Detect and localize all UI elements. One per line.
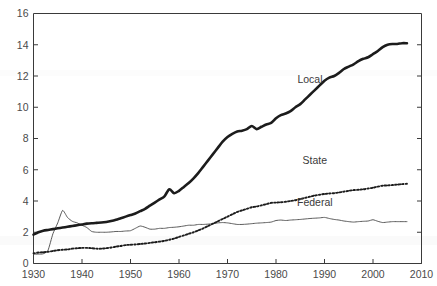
x-tick-label: 1980 — [264, 268, 288, 280]
y-tick-label: 8 — [23, 132, 29, 144]
y-tick-label: 10 — [17, 101, 29, 113]
annotation-label-local: Local — [297, 73, 322, 85]
x-tick-label: 1950 — [119, 268, 143, 280]
series-line-local — [34, 43, 407, 234]
x-tick-label: 2010 — [410, 268, 434, 280]
y-tick-label: 16 — [17, 7, 29, 19]
y-axis-ticks: 0246810121416 — [17, 7, 422, 269]
x-axis-ticks: 193019401950196019701980199020002010 — [22, 259, 434, 280]
y-tick-label: 4 — [23, 195, 29, 207]
chart-container: 0246810121416 19301940195019601970198019… — [0, 0, 437, 286]
x-tick-label: 1940 — [70, 268, 94, 280]
y-tick-label: 2 — [23, 226, 29, 238]
x-tick-label: 2000 — [361, 268, 385, 280]
y-tick-label: 14 — [17, 39, 29, 51]
x-tick-label: 1930 — [22, 268, 46, 280]
line-chart-plot: 0246810121416 19301940195019601970198019… — [0, 0, 437, 286]
x-tick-label: 1970 — [216, 268, 240, 280]
annotation-label-state: State — [303, 154, 328, 166]
y-tick-label: 12 — [17, 70, 29, 82]
series-line-state — [34, 184, 407, 254]
annotation-label-federal: Federal — [297, 196, 333, 208]
x-tick-label: 1990 — [313, 268, 337, 280]
series-annotations: LocalStateFederal — [297, 73, 333, 208]
y-tick-label: 6 — [23, 164, 29, 176]
x-tick-label: 1960 — [167, 268, 191, 280]
